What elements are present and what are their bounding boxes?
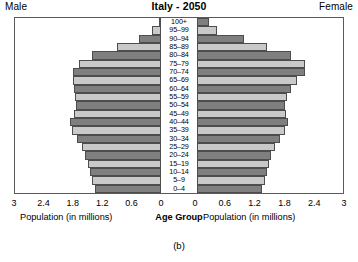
- female-bar-cell: [197, 101, 343, 109]
- axis-tick-label: 0: [158, 198, 163, 208]
- female-bar: [197, 168, 267, 176]
- female-bar: [197, 118, 288, 126]
- axis-tick-label: 0.6: [125, 198, 138, 208]
- female-bar: [197, 160, 269, 168]
- female-bar-cell: [197, 68, 343, 76]
- female-bar: [197, 101, 285, 109]
- right-axis-ticks: 00.61.21.82.43: [195, 194, 344, 212]
- female-bar: [197, 143, 275, 151]
- center-axis-caption: Age Group: [0, 212, 358, 222]
- female-bar: [197, 151, 271, 159]
- female-bar: [197, 18, 209, 26]
- plot-area: 100+95–9990–9485–8980–8475–7970–7465–696…: [14, 17, 344, 194]
- female-bar-cell: [197, 76, 343, 84]
- female-bar-cell: [197, 43, 343, 51]
- male-bar: [77, 135, 161, 143]
- female-bar: [197, 110, 286, 118]
- male-bar: [152, 26, 161, 34]
- male-bar: [95, 185, 161, 193]
- male-bar: [139, 35, 161, 43]
- male-bar: [72, 126, 161, 134]
- male-bar: [92, 51, 161, 59]
- figure-header: Male Italy - 2050 Female: [0, 0, 358, 17]
- male-bar-cell: [15, 35, 161, 43]
- female-bar: [197, 85, 291, 93]
- male-bar: [73, 68, 161, 76]
- female-bar-cell: [197, 176, 343, 184]
- axis-tick-label: 1.2: [248, 198, 261, 208]
- female-bar-cell: [197, 151, 343, 159]
- male-bar-cell: [15, 43, 161, 51]
- male-bar-cell: [15, 68, 161, 76]
- axis-tick-label: 1.8: [278, 198, 291, 208]
- female-bar: [197, 35, 244, 43]
- chart-title: Italy - 2050: [0, 0, 358, 12]
- female-bar: [197, 76, 297, 84]
- male-bar-cell: [15, 126, 161, 134]
- left-axis-ticks: 32.41.81.20.60: [14, 194, 161, 212]
- male-bar: [76, 101, 161, 109]
- female-bar-cell: [197, 143, 343, 151]
- female-bar-cell: [197, 185, 343, 193]
- male-bar-cell: [15, 76, 161, 84]
- axis-tick-row: 32.41.81.20.60 00.61.21.82.43: [0, 194, 358, 212]
- female-bar: [197, 176, 265, 184]
- male-bar-cell: [15, 18, 161, 26]
- female-bar-cell: [197, 26, 343, 34]
- axis-tick-label: 2.4: [308, 198, 321, 208]
- female-bar: [197, 93, 287, 101]
- male-bar-cell: [15, 118, 161, 126]
- male-bar: [74, 110, 161, 118]
- male-bar-cell: [15, 60, 161, 68]
- axis-tick-label: 2.4: [37, 198, 50, 208]
- female-bar-cell: [197, 135, 343, 143]
- female-bar-cell: [197, 85, 343, 93]
- male-bar-cell: [15, 85, 161, 93]
- male-bar: [90, 168, 161, 176]
- male-bar: [88, 160, 161, 168]
- female-bar: [197, 68, 305, 76]
- male-bar: [70, 118, 161, 126]
- female-bar: [197, 135, 280, 143]
- male-bar: [79, 60, 161, 68]
- female-bar-cell: [197, 35, 343, 43]
- female-bar-cell: [197, 118, 343, 126]
- male-bar-cell: [15, 176, 161, 184]
- male-bar-cell: [15, 26, 161, 34]
- female-bar-cell: [197, 110, 343, 118]
- female-bar-cell: [197, 51, 343, 59]
- pyramid-row: 0–4: [15, 185, 343, 193]
- male-bar: [75, 93, 161, 101]
- axis-tick-label: 3: [341, 198, 346, 208]
- male-bar-cell: [15, 101, 161, 109]
- axis-caption-row: Population (in millions) Age Group Popul…: [0, 212, 358, 228]
- female-bar-cell: [197, 93, 343, 101]
- male-bar-cell: [15, 151, 161, 159]
- age-group-label: 0–4: [161, 185, 197, 193]
- axis-tick-label: 0: [192, 198, 197, 208]
- male-bar-cell: [15, 168, 161, 176]
- female-bar: [197, 26, 217, 34]
- population-pyramid-figure: Male Italy - 2050 Female 100+95–9990–948…: [0, 0, 358, 262]
- female-bar: [197, 43, 267, 51]
- female-bar: [197, 126, 285, 134]
- male-bar-cell: [15, 110, 161, 118]
- male-bar-cell: [15, 93, 161, 101]
- female-legend-label: Female: [319, 1, 353, 12]
- axis-tick-label: 3: [11, 198, 16, 208]
- axis-tick-label: 0.6: [219, 198, 232, 208]
- axis-tick-label: 1.8: [67, 198, 80, 208]
- female-bar: [197, 51, 291, 59]
- male-bar-cell: [15, 51, 161, 59]
- male-bar: [92, 176, 161, 184]
- male-bar-cell: [15, 143, 161, 151]
- figure-caption: (b): [0, 240, 358, 251]
- male-bar: [73, 76, 161, 84]
- male-bar-cell: [15, 135, 161, 143]
- male-bar-cell: [15, 160, 161, 168]
- male-bar: [74, 85, 161, 93]
- male-bar: [85, 151, 161, 159]
- female-bar-cell: [197, 160, 343, 168]
- female-bar-cell: [197, 126, 343, 134]
- female-bar: [197, 60, 305, 68]
